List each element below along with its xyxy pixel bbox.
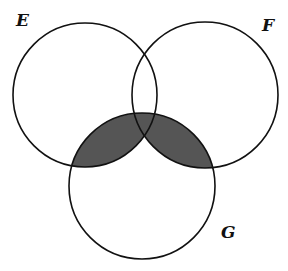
shaded-region bbox=[13, 22, 278, 168]
venn-svg bbox=[0, 0, 288, 271]
label-e: E bbox=[16, 12, 29, 29]
venn-diagram: E F G bbox=[0, 0, 288, 271]
circle-f bbox=[132, 22, 278, 168]
label-f: F bbox=[262, 17, 274, 34]
label-g: G bbox=[221, 224, 236, 241]
